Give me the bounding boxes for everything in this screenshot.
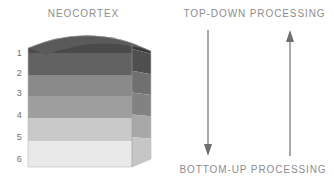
layer-number-list: 1 2 3 4 5 6 xyxy=(0,22,22,172)
processing-arrows xyxy=(167,22,334,167)
top-down-processing-label: TOP-DOWN PROCESSING xyxy=(175,8,334,19)
layer-number-3: 3 xyxy=(0,88,22,98)
layer-band-4-side xyxy=(128,92,160,117)
layer-band-4-front xyxy=(20,96,140,118)
bottom-up-arrow xyxy=(286,30,294,156)
layer-band-5-side xyxy=(128,114,160,139)
layer-band-5-front xyxy=(20,118,140,141)
layer-number-6: 6 xyxy=(0,154,22,164)
layer-band-3-front xyxy=(20,75,140,96)
layer-band-3-side xyxy=(128,70,160,96)
neocortex-figure: NEOCORTEX TOP-DOWN PROCESSING BOTTOM-UP … xyxy=(0,0,334,185)
neocortex-title: NEOCORTEX xyxy=(0,8,167,19)
layer-band-6-front xyxy=(20,141,140,172)
layer-number-1: 1 xyxy=(0,48,22,58)
layer-number-5: 5 xyxy=(0,132,22,142)
top-down-arrow xyxy=(204,30,212,156)
layer-number-4: 4 xyxy=(0,110,22,120)
layer-number-2: 2 xyxy=(0,68,22,78)
cortex-block xyxy=(20,22,165,172)
layer-band-2-front xyxy=(20,53,140,75)
